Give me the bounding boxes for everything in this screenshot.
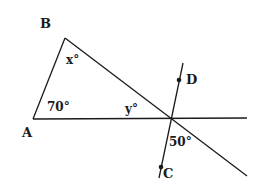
label-point-a: A [21,125,33,140]
line-b-through-intersection [65,38,247,176]
angle-label-70: 70° [47,100,70,114]
angle-label-x: x° [66,53,79,67]
line-horizontal-through-a [33,118,247,119]
geometry-diagram: B A D C x° 70° y° 50° [0,0,258,188]
label-point-c: C [163,166,173,181]
label-point-b: B [40,16,51,31]
angle-label-y: y° [124,102,138,116]
angle-label-50: 50° [169,135,192,149]
label-point-d: D [186,72,197,87]
point-d-marker [177,78,182,83]
